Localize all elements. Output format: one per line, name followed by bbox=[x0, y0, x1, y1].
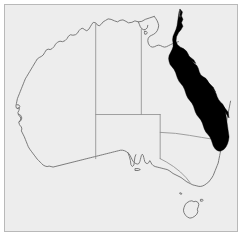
border-nsw-vic bbox=[160, 159, 190, 183]
tasmania-small-island bbox=[201, 199, 203, 201]
arnhem-land-coastline bbox=[138, 22, 147, 30]
australia-map-svg bbox=[5, 5, 237, 231]
map-frame bbox=[4, 4, 238, 232]
tasmania-coastline bbox=[183, 201, 198, 218]
distribution-range-polygon bbox=[169, 9, 229, 151]
island-arnhem bbox=[144, 31, 147, 34]
kangaroo-island bbox=[135, 168, 140, 170]
distribution-map-figure: australia-outline-map Distribution range… bbox=[0, 0, 246, 236]
bass-strait-island bbox=[180, 193, 182, 195]
